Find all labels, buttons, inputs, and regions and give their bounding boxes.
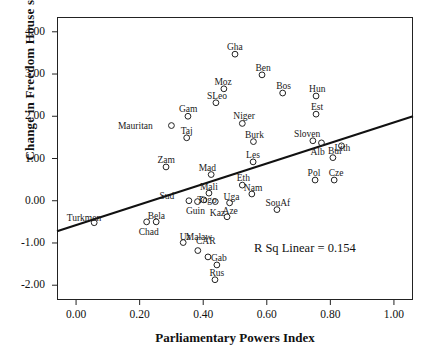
data-point-label: Les — [246, 151, 260, 161]
y-axis-title-wrap: Change in Freedom House score — [0, 0, 30, 300]
data-point-label: Est — [311, 103, 323, 113]
x-axis-title: Parliamentary Powers Index — [57, 330, 413, 346]
data-point-label: Chad — [139, 228, 159, 238]
y-tick-label: 4.00 — [0, 25, 45, 37]
x-tick-label: 1.00 — [371, 308, 417, 320]
data-point-label: Mad — [199, 164, 216, 174]
y-tick-label: 1.00 — [0, 152, 45, 164]
data-point-label: Turkmen — [67, 214, 102, 224]
y-tick-label: 2.00 — [0, 109, 45, 121]
x-tick-label: 0.60 — [244, 308, 290, 320]
y-tick-label: 3.00 — [0, 67, 45, 79]
data-point-label: Togo — [197, 196, 216, 206]
data-point-label: Gab — [211, 254, 227, 264]
scatter-plot-figure: Change in Freedom House score 4.003.002.… — [0, 0, 435, 353]
data-point-label: Ben — [256, 64, 271, 74]
data-point-label: Taj — [181, 127, 193, 137]
data-point-label: Cze — [329, 169, 344, 179]
data-point-label: Aze — [223, 207, 238, 217]
data-point-label: SLeo — [207, 92, 227, 102]
data-point-label: Gam — [179, 105, 197, 115]
data-point-label: CAR — [196, 237, 216, 247]
data-point-label: Mauritan — [118, 122, 153, 132]
data-point-label: Niger — [233, 112, 255, 122]
data-point-label: Nam — [244, 184, 262, 194]
x-tick-label: 0.40 — [180, 308, 226, 320]
data-point-label: SouAf — [265, 199, 290, 209]
x-tick-label: 0.20 — [117, 308, 163, 320]
data-point-label: Alb — [310, 148, 324, 158]
plot-area — [57, 17, 413, 300]
y-tick-label: -2.00 — [0, 278, 45, 290]
data-point-label: Burk — [245, 131, 264, 141]
data-point-label: Sloven — [294, 130, 320, 140]
data-point-label: Bos — [276, 82, 291, 92]
data-point-label: Moz — [214, 78, 231, 88]
data-point-label: Sud — [159, 192, 174, 202]
x-tick-label: 0.80 — [307, 308, 353, 320]
data-point-label: Guin — [186, 207, 205, 217]
data-point-label: Gha — [227, 43, 243, 53]
data-point-label: Mali — [200, 183, 218, 193]
data-point-label: Rus — [209, 269, 224, 279]
data-point-label: Hun — [309, 85, 325, 95]
data-point-label: Uga — [224, 193, 240, 203]
y-tick-label: -1.00 — [0, 236, 45, 248]
data-point-label: Zam — [158, 156, 175, 166]
y-tick-label: 0.00 — [0, 194, 45, 206]
r-squared-annotation: R Sq Linear = 0.154 — [254, 241, 356, 256]
data-point-label: Bela — [148, 212, 165, 222]
data-point-label: Bul — [328, 147, 342, 157]
data-point-label: Pol — [308, 169, 321, 179]
x-tick-label: 0.00 — [53, 308, 99, 320]
